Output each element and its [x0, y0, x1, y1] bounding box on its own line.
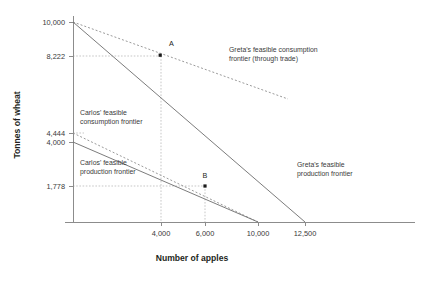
- x-axis-tick-labels: 4,000 6,000 10,000 12,500: [152, 229, 317, 238]
- x-axis-title: Number of apples: [156, 253, 229, 263]
- x-tick-label-10000: 10,000: [247, 229, 270, 238]
- y-tick-label-1778: 1,778: [47, 182, 66, 191]
- annotation-greta-production-line2: production frontier: [297, 170, 353, 178]
- y-tick-label-10000: 10,000: [42, 18, 65, 27]
- y-tick-label-4444: 4,444: [47, 129, 66, 138]
- annotation-carlos-consumption: Carlos' feasible consumption frontier: [80, 109, 143, 126]
- annotation-carlos-production-line1: Carlos' feasible: [80, 159, 127, 166]
- series-carlos-consumption-frontier: [73, 133, 258, 222]
- annotation-carlos-production: Carlos' feasible production frontier: [80, 159, 136, 176]
- economics-frontier-chart: A B 10,000 8,222 4,444 4,000 1,778 4,000…: [0, 0, 423, 281]
- series-carlos-production-frontier: [73, 142, 258, 222]
- y-axis-title: Tonnes of wheat: [12, 91, 22, 158]
- annotation-greta-production: Greta's feasible production frontier: [297, 161, 353, 178]
- guide-lines: [73, 56, 205, 222]
- y-tick-label-8222: 8,222: [47, 52, 66, 61]
- annotation-carlos-production-line2: production frontier: [80, 168, 136, 176]
- annotation-greta-consumption-line1: Greta's feasible consumption: [229, 46, 318, 54]
- x-tick-label-12500: 12,500: [294, 229, 317, 238]
- x-tick-label-4000: 4,000: [152, 229, 171, 238]
- data-point-b-marker[interactable]: [203, 184, 206, 187]
- annotation-greta-consumption-line2: frontier (through trade): [229, 55, 298, 63]
- chart-container: A B 10,000 8,222 4,444 4,000 1,778 4,000…: [0, 0, 423, 281]
- x-tick-label-6000: 6,000: [196, 229, 215, 238]
- data-point-a-marker[interactable]: [159, 54, 162, 57]
- annotation-greta-consumption: Greta's feasible consumption frontier (t…: [229, 46, 318, 63]
- annotation-carlos-consumption-line1: Carlos' feasible: [80, 109, 127, 116]
- y-axis-tick-labels: 10,000 8,222 4,444 4,000 1,778: [42, 18, 65, 191]
- data-point-a-label: A: [169, 39, 174, 48]
- y-tick-label-4000: 4,000: [47, 138, 66, 147]
- data-point-b-label: B: [203, 171, 208, 180]
- annotation-greta-production-line1: Greta's feasible: [297, 161, 345, 168]
- annotation-carlos-consumption-line2: consumption frontier: [80, 118, 143, 126]
